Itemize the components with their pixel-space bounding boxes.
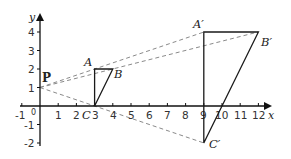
y-tick--1: -1	[24, 119, 34, 131]
y-axis-label: y	[28, 11, 36, 24]
x-tick-2: 2	[73, 109, 80, 121]
y-tick-1: 1	[28, 82, 35, 94]
point-a-prime-label: A′	[192, 17, 204, 31]
triangle-abc	[95, 69, 113, 106]
y-tick-2: 2	[28, 63, 35, 75]
x-tick-4: 4	[110, 109, 117, 121]
point-c-label: C	[82, 108, 91, 122]
y-tick-4: 4	[28, 26, 35, 38]
point-b-label: B	[113, 67, 122, 81]
x-tick-11: 11	[234, 109, 247, 121]
x-tick-12: 12	[252, 109, 265, 121]
x-tick-7: 7	[164, 109, 171, 121]
ray-p-to-c-prime	[40, 88, 204, 144]
x-tick-8: 8	[182, 109, 189, 121]
triangle-a-prime-b-prime-c-prime	[204, 32, 259, 143]
y-tick-3: 3	[28, 45, 35, 57]
point-c-prime-label: C′	[209, 137, 221, 151]
point-a-label: A	[83, 55, 92, 69]
center-p-label: P	[42, 71, 51, 85]
x-tick-3: 3	[92, 109, 99, 121]
y-axis: y 4 3 2 1 -1 -2	[24, 11, 40, 149]
y-tick--2: -2	[24, 137, 34, 149]
x-tick-1: 1	[55, 109, 62, 121]
x-axis-label: x	[268, 109, 275, 122]
x-tick-6: 6	[146, 109, 153, 121]
x-axis: -1 0 1 2 3 4 5 6 7 8 9 10 11 12 x	[15, 103, 275, 122]
enlargement-diagram: -1 0 1 2 3 4 5 6 7 8 9 10 11 12 x y 4 3 …	[0, 0, 291, 159]
x-tick-5: 5	[128, 109, 135, 121]
x-tick-0: 0	[31, 108, 36, 117]
point-b-prime-label: B′	[260, 35, 272, 49]
dashed-rays	[40, 32, 258, 143]
ray-p-to-b-prime	[40, 32, 258, 88]
